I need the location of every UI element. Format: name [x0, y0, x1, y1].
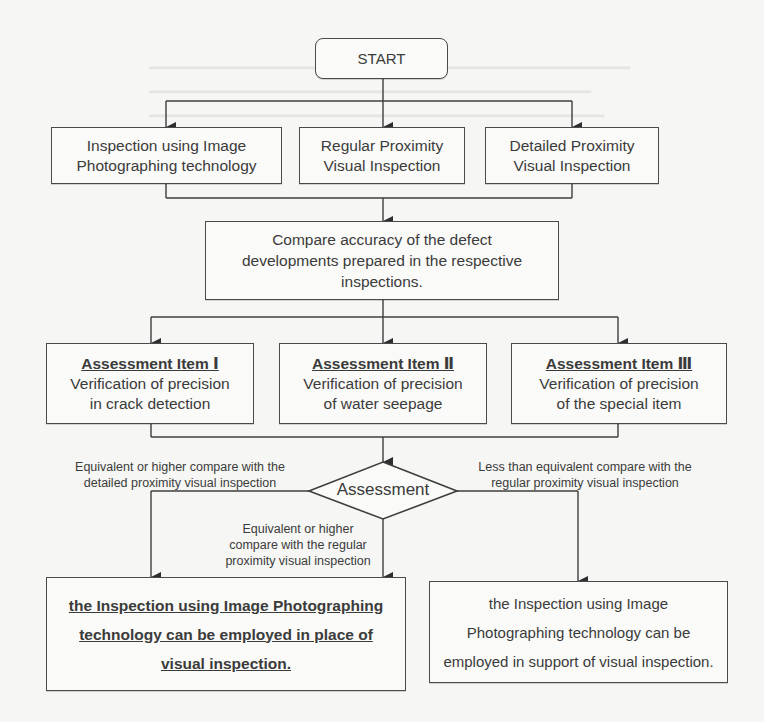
edge-label-line: proximity visual inspection — [218, 553, 378, 569]
edge-label-detailed-equivalent: Equivalent or higher compare with the de… — [60, 459, 300, 491]
edge-label-line: Less than equivalent compare with the — [465, 459, 705, 475]
edge-label-line: regular proximity visual inspection — [465, 475, 705, 491]
node-text-line: Visual Inspection — [324, 156, 441, 176]
inspection-image-photographing-node: Inspection using Image Photographing tec… — [51, 127, 282, 184]
node-text-line: Detailed Proximity — [510, 136, 635, 156]
node-text-line: Photographing technology — [76, 156, 256, 176]
assessment-item-1-node: Assessment Item Ⅰ Verification of precis… — [46, 343, 254, 424]
node-text-line: Visual Inspection — [514, 156, 631, 176]
node-text-line: Regular Proximity — [321, 136, 443, 156]
node-text-line: the Inspection using Image Photographing — [69, 591, 383, 620]
assessment-item-title: Assessment Item Ⅰ — [81, 354, 219, 374]
node-text-line: employed in support of visual inspection… — [443, 647, 713, 676]
node-text-line: the Inspection using Image — [489, 589, 668, 618]
outcome-replace-visual-inspection-node: the Inspection using Image Photographing… — [46, 577, 406, 691]
node-text-line: of the special item — [557, 394, 682, 414]
node-text-line: technology can be employed in place of — [79, 620, 373, 649]
node-text-line: Verification of precision — [70, 374, 229, 394]
node-text-line: Verification of precision — [303, 374, 462, 394]
start-node: START — [315, 38, 448, 79]
assessment-item-2-node: Assessment Item Ⅱ Verification of precis… — [279, 343, 487, 424]
edge-label-regular-equivalent: Equivalent or higher compare with the re… — [218, 521, 378, 569]
edge-label-less-than-equivalent: Less than equivalent compare with the re… — [465, 459, 705, 491]
node-text-line: developments prepared in the respective — [242, 250, 522, 271]
node-text-line: Inspection using Image — [87, 136, 246, 156]
assessment-item-title: Assessment Item Ⅱ — [312, 354, 454, 374]
start-label: START — [358, 49, 406, 69]
edge-label-line: Equivalent or higher compare with the — [60, 459, 300, 475]
node-text-line: Compare accuracy of the defect — [272, 229, 492, 250]
node-text-line: of water seepage — [324, 394, 443, 414]
node-text-line: inspections. — [341, 271, 423, 292]
assessment-item-title: Assessment Item Ⅲ — [546, 354, 692, 374]
outcome-support-visual-inspection-node: the Inspection using Image Photographing… — [429, 581, 728, 683]
regular-proximity-visual-inspection-node: Regular Proximity Visual Inspection — [299, 127, 465, 184]
node-text-line: in crack detection — [90, 394, 211, 414]
detailed-proximity-visual-inspection-node: Detailed Proximity Visual Inspection — [485, 127, 659, 184]
assessment-item-3-node: Assessment Item Ⅲ Verification of precis… — [511, 343, 727, 424]
edge-label-line: compare with the regular — [218, 537, 378, 553]
compare-accuracy-node: Compare accuracy of the defect developme… — [205, 221, 559, 300]
edge-label-line: detailed proximity visual inspection — [60, 475, 300, 491]
edge-label-line: Equivalent or higher — [218, 521, 378, 537]
node-text-line: Verification of precision — [539, 374, 698, 394]
assessment-decision-label: Assessment — [309, 480, 457, 500]
node-text-line: visual inspection. — [161, 649, 291, 678]
node-text-line: Photographing technology can be — [467, 618, 691, 647]
